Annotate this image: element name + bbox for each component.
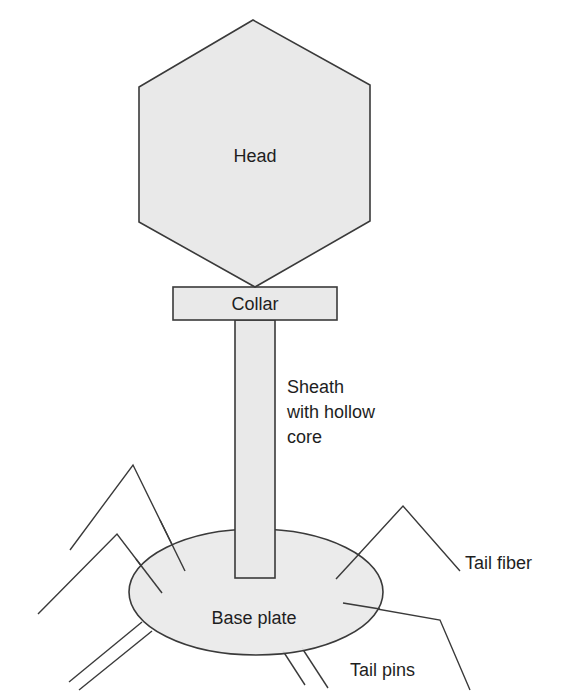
label-sheath-3: core [287,427,322,447]
tail-pin-right-b [302,648,328,688]
label-collar: Collar [231,294,278,314]
label-sheath-2: with hollow [286,402,376,422]
tail-pin-left-b [79,631,152,690]
tail-pin-right-a [283,651,305,685]
label-base-plate: Base plate [211,608,296,628]
bacteriophage-diagram: Head Collar Sheath with hollow core Base… [0,0,563,700]
label-sheath-1: Sheath [287,377,344,397]
sheath [235,320,275,578]
label-tail-pins: Tail pins [350,660,415,680]
label-tail-fiber: Tail fiber [465,553,532,573]
tail-pin-left-a [69,622,142,682]
label-head: Head [233,146,276,166]
